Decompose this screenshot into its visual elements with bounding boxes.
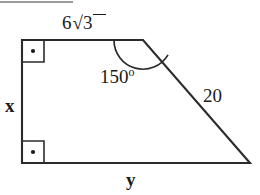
radical-overbar xyxy=(93,14,106,15)
label-left-side: x xyxy=(5,96,15,115)
label-top-coefficient: 6 xyxy=(62,12,72,33)
geometry-figure: 6√3 x y 20 150o xyxy=(0,0,260,195)
label-interior-angle: 150o xyxy=(100,67,135,86)
radicand-value: 3 xyxy=(83,12,93,33)
label-bottom-side: y xyxy=(126,170,136,189)
label-slant-side: 20 xyxy=(203,86,222,105)
angle-arc-150 xyxy=(114,40,168,69)
radical-sign: √ xyxy=(73,12,83,33)
degree-symbol: o xyxy=(129,65,135,79)
right-angle-dot-top-left xyxy=(31,49,35,53)
right-angle-dot-bottom-left xyxy=(31,150,35,154)
angle-value: 150 xyxy=(100,66,129,87)
radicand: 3 xyxy=(83,13,93,32)
label-top-side: 6√3 xyxy=(62,13,92,32)
radical-group: √3 xyxy=(72,13,93,32)
